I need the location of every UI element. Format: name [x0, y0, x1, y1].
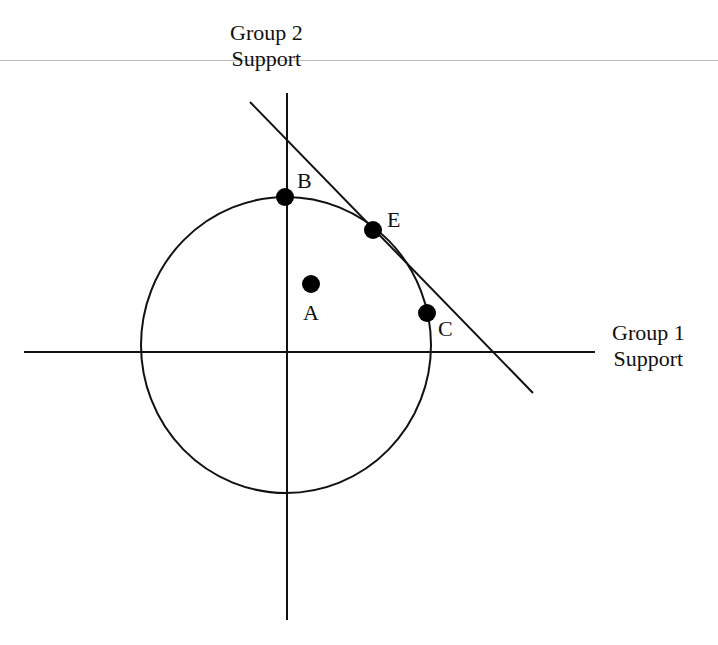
- point-a: [302, 275, 320, 293]
- diagram-canvas: [0, 0, 718, 645]
- tangent-line: [250, 102, 533, 393]
- point-c-label: C: [438, 316, 453, 342]
- point-c: [418, 304, 436, 322]
- x-axis-label-line1: Group 1: [612, 320, 685, 346]
- point-e: [364, 221, 382, 239]
- point-b: [276, 188, 294, 206]
- point-e-label: E: [387, 207, 400, 233]
- x-axis-label-line2: Support: [612, 346, 685, 372]
- x-axis-label: Group 1 Support: [612, 320, 685, 372]
- point-a-label: A: [303, 300, 319, 326]
- point-b-label: B: [297, 168, 312, 194]
- y-axis-label-line2: Support: [230, 46, 303, 72]
- y-axis-label: Group 2 Support: [230, 20, 303, 72]
- y-axis-label-line1: Group 2: [230, 20, 303, 46]
